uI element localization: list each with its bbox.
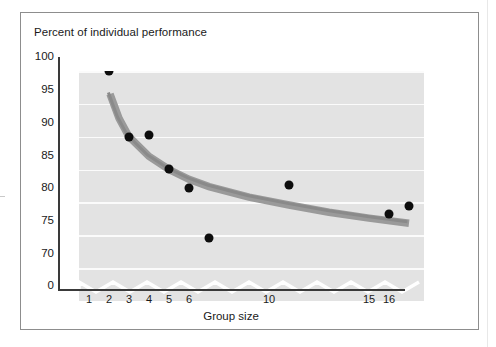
y-tick-label-95: 95	[21, 83, 54, 95]
x-tick-label-3: 3	[126, 293, 132, 305]
page-edge-mark-right	[487, 0, 488, 347]
y-tick-label-90: 90	[21, 116, 54, 128]
figure-container: Percent of individual performance 100959…	[0, 0, 496, 347]
chart-title: Percent of individual performance	[34, 26, 207, 38]
data-point	[405, 201, 414, 210]
trend-curve	[79, 71, 424, 301]
x-axis-line	[58, 289, 405, 291]
data-point	[185, 183, 194, 192]
x-tick-label-10: 10	[263, 293, 275, 305]
y-tick-label-75: 75	[21, 214, 54, 226]
y-axis-line	[58, 57, 60, 291]
page-edge-mark-left	[0, 196, 5, 197]
y-tick-label-70: 70	[21, 247, 54, 259]
plot-area	[79, 71, 424, 301]
y-tick-label-80: 80	[21, 181, 54, 193]
x-tick-label-6: 6	[186, 293, 192, 305]
x-axis-title: Group size	[203, 310, 259, 322]
chart-frame: Percent of individual performance 100959…	[20, 12, 479, 330]
x-tick-label-1: 1	[86, 293, 92, 305]
data-point	[205, 234, 214, 243]
y-tick-label-85: 85	[21, 149, 54, 161]
y-tick-label-100: 100	[21, 50, 54, 62]
data-point	[165, 164, 174, 173]
x-tick-label-15: 15	[363, 293, 375, 305]
x-tick-label-5: 5	[166, 293, 172, 305]
data-point	[125, 132, 134, 141]
x-tick-label-4: 4	[146, 293, 152, 305]
y-tick-label-0: 0	[21, 279, 54, 291]
data-point	[385, 210, 394, 219]
x-tick-label-2: 2	[106, 293, 112, 305]
data-point	[145, 131, 154, 140]
x-tick-label-16: 16	[383, 293, 395, 305]
data-point	[285, 181, 294, 190]
